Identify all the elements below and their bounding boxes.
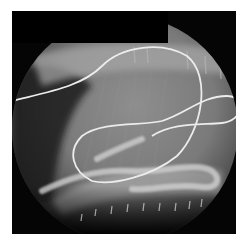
redaction-mask: [12, 11, 168, 43]
xray-image: [12, 11, 236, 234]
xray-frame: [12, 11, 236, 234]
xray-field: [12, 11, 236, 234]
